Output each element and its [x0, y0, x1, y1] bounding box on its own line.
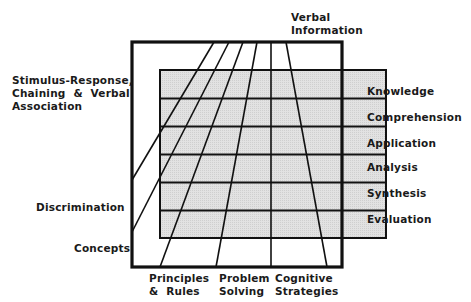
label-line: Discrimination [36, 201, 125, 214]
label-concepts: Concepts [74, 242, 130, 255]
label-discrimination: Discrimination [36, 201, 125, 214]
label-line: Principles [149, 272, 209, 285]
taxonomy-level-analysis: Analysis [367, 161, 418, 174]
label-problem-solving: Problem Solving [219, 272, 270, 298]
label-verbal-information: Verbal Information [291, 11, 363, 37]
label-line: Stimulus-Response, [12, 74, 133, 87]
label-line: Problem [219, 272, 270, 285]
taxonomy-level-application: Application [367, 137, 436, 150]
label-cognitive-strategies: Cognitive Strategies [275, 272, 338, 298]
label-line: Concepts [74, 242, 130, 255]
label-line: Verbal [291, 11, 363, 24]
diagram-canvas [0, 0, 471, 302]
label-line: & Rules [149, 285, 209, 298]
taxonomy-level-comprehension: Comprehension [367, 111, 462, 124]
label-line: Cognitive [275, 272, 338, 285]
label-line: Solving [219, 285, 270, 298]
label-stimulus-response: Stimulus-Response, Chaining & Verbal Ass… [12, 74, 133, 113]
label-line: Information [291, 24, 363, 37]
label-principles-rules: Principles & Rules [149, 272, 209, 298]
taxonomy-level-knowledge: Knowledge [367, 85, 434, 98]
label-line: Strategies [275, 285, 338, 298]
label-line: Association [12, 100, 133, 113]
taxonomy-level-evaluation: Evaluation [367, 213, 432, 226]
label-line: Chaining & Verbal [12, 87, 133, 100]
taxonomy-level-synthesis: Synthesis [367, 187, 426, 200]
